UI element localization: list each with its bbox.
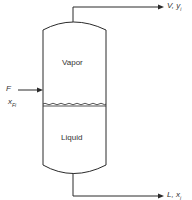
- liquid-text: Liquid: [61, 133, 82, 142]
- liquid-level-line: [43, 103, 106, 105]
- feed-label: F: [6, 84, 11, 93]
- flash-drum-diagram: [0, 0, 192, 200]
- feed-arrow-icon: [37, 88, 43, 93]
- vapor-stream-text: V, y: [167, 1, 180, 10]
- vapor-outlet-pipe: [73, 7, 158, 22]
- feed-composition-label: xFi: [8, 97, 16, 108]
- liquid-outlet-pipe: [73, 173, 158, 196]
- liquid-stream-label: L, xi: [167, 190, 181, 200]
- vapor-text: Vapor: [62, 58, 83, 67]
- vapor-stream-label: V, yi: [167, 1, 181, 12]
- liquid-arrow-icon: [158, 194, 164, 199]
- feed-composition-sub: Fi: [12, 102, 16, 108]
- feed-text: F: [6, 84, 11, 93]
- vapor-stream-sub: i: [180, 6, 181, 12]
- vapor-region-label: Vapor: [62, 58, 83, 67]
- liquid-region-label: Liquid: [61, 133, 82, 142]
- liquid-stream-text: L, x: [167, 190, 180, 199]
- vessel-outline: [43, 22, 106, 174]
- liquid-stream-sub: i: [180, 195, 181, 200]
- vapor-arrow-icon: [158, 5, 164, 10]
